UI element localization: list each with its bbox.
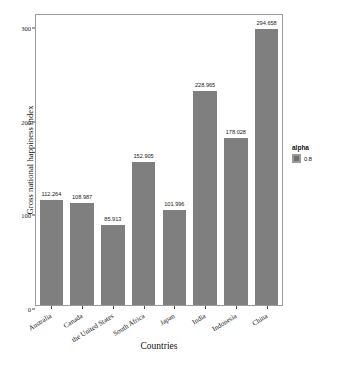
legend-entry-label: 0.8 xyxy=(304,156,312,162)
x-tick-mark xyxy=(236,306,237,309)
bar-group: 101.996 xyxy=(159,15,190,305)
bar-chart-figure: Gross national happiness index 010020030… xyxy=(0,0,342,365)
legend-swatch-fill xyxy=(294,156,299,161)
x-tick-mark xyxy=(51,306,52,309)
x-tick-mark xyxy=(174,306,175,309)
bar-group: 152.905 xyxy=(128,15,159,305)
plot-area: 112.264108.98785.913152.905101.996228.96… xyxy=(36,15,282,305)
bar[interactable] xyxy=(70,203,93,305)
legend-swatch-icon xyxy=(292,154,301,163)
legend-entry[interactable]: 0.8 xyxy=(292,154,340,163)
bar[interactable] xyxy=(163,210,186,305)
bar-value-label: 108.987 xyxy=(72,194,92,200)
x-tick-mark xyxy=(267,306,268,309)
bar-value-label: 112.264 xyxy=(41,191,61,197)
legend: alpha 0.8 xyxy=(292,144,340,163)
bar[interactable] xyxy=(255,29,278,305)
x-tick-mark xyxy=(205,306,206,309)
bar-group: 85.913 xyxy=(98,15,129,305)
x-tick-label: India xyxy=(191,312,207,326)
bar[interactable] xyxy=(40,200,63,305)
x-axis-title: Countries xyxy=(35,341,283,351)
x-tick-mark xyxy=(144,306,145,309)
bar-group: 294.658 xyxy=(251,15,282,305)
y-tick-label: 200 xyxy=(21,118,31,125)
bar-group: 178.028 xyxy=(221,15,252,305)
bar-value-label: 294.658 xyxy=(257,20,277,26)
bar-group: 228.965 xyxy=(190,15,221,305)
bar[interactable] xyxy=(101,225,124,305)
x-tick-mark xyxy=(113,306,114,309)
legend-title: alpha xyxy=(292,144,340,151)
bar[interactable] xyxy=(132,162,155,305)
x-tick-mark xyxy=(82,306,83,309)
y-tick-label: 300 xyxy=(21,25,31,32)
bar-value-label: 178.028 xyxy=(226,129,246,135)
bar-group: 108.987 xyxy=(67,15,98,305)
bar-value-label: 228.965 xyxy=(195,82,215,88)
bar-value-label: 152.905 xyxy=(134,153,154,159)
bar-value-label: 85.913 xyxy=(104,216,121,222)
y-axis: 0100200300 xyxy=(0,18,35,302)
x-tick-label: Australia xyxy=(28,312,54,332)
bar-group: 112.264 xyxy=(36,15,67,305)
x-tick-label: China xyxy=(250,312,268,328)
bar-value-label: 101.996 xyxy=(164,201,184,207)
figure-caption-strip xyxy=(24,358,320,365)
bar[interactable] xyxy=(224,138,247,305)
x-tick-label: Indonesia xyxy=(211,312,238,333)
plot-panel: 112.264108.98785.913152.905101.996228.96… xyxy=(35,14,283,306)
x-tick-label: Japan xyxy=(159,312,177,327)
y-tick-label: 0 xyxy=(28,306,31,313)
bar[interactable] xyxy=(193,91,216,305)
x-tick-label: South Africa xyxy=(111,312,145,338)
y-tick-label: 100 xyxy=(21,212,31,219)
x-tick-label: Canada xyxy=(62,312,84,330)
